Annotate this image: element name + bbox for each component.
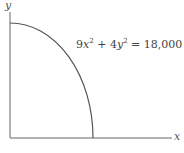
y-axis-label: y (5, 0, 11, 12)
diagram-canvas (0, 0, 184, 153)
plus-sign: + (94, 38, 110, 51)
ellipse-equation: 9x2 + 4y2 = 18,000 (76, 37, 182, 51)
coef-x: 9 (76, 38, 83, 51)
x-axis-label: x (174, 130, 180, 143)
equation-rhs: = 18,000 (128, 38, 183, 51)
coef-y: 4 (110, 38, 117, 51)
